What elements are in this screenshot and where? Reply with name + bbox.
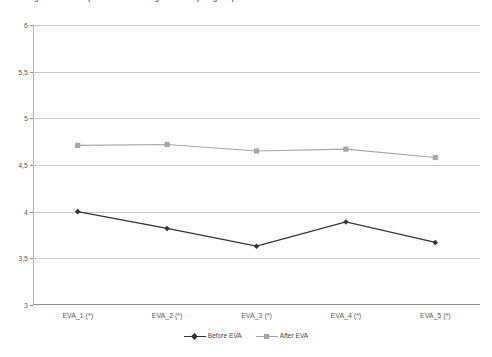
y-tick-label: 4,5 bbox=[18, 162, 28, 169]
legend-label: After EVA bbox=[280, 333, 308, 340]
square-marker-icon bbox=[165, 142, 170, 147]
legend-label: Before EVA bbox=[208, 333, 242, 340]
diamond-marker-icon bbox=[164, 226, 170, 232]
plot-area: 33,544,555,56 EVA_1 (*)EVA_2 (*)EVA_3 (*… bbox=[33, 25, 480, 305]
legend-entry[interactable]: After EVA bbox=[256, 333, 308, 340]
y-tick-label: 6 bbox=[24, 22, 28, 29]
square-marker-icon bbox=[254, 148, 259, 153]
diamond-marker-icon bbox=[343, 219, 349, 225]
x-tick-label: EVA_1 (*) bbox=[62, 312, 93, 319]
legend-swatch bbox=[184, 333, 206, 340]
y-tick-mark bbox=[30, 305, 33, 306]
line-chart: 33,544,555,56 EVA_1 (*)EVA_2 (*)EVA_3 (*… bbox=[0, 0, 492, 357]
diamond-marker-icon bbox=[254, 243, 260, 249]
square-marker-icon bbox=[343, 147, 348, 152]
diamond-marker-icon bbox=[191, 333, 198, 340]
y-tick-label: 5,5 bbox=[18, 68, 28, 75]
legend-swatch bbox=[256, 333, 278, 340]
y-tick-label: 4 bbox=[24, 208, 28, 215]
square-marker-icon bbox=[433, 155, 438, 160]
series-line-before-eva bbox=[78, 212, 436, 247]
x-tick-label: EVA_5 (*) bbox=[420, 312, 451, 319]
y-tick-label: 3,5 bbox=[18, 255, 28, 262]
x-tick-label: EVA_4 (*) bbox=[331, 312, 362, 319]
x-tick-label: EVA_3 (*) bbox=[241, 312, 272, 319]
x-tick-label: EVA_2 (*) bbox=[152, 312, 183, 319]
diamond-marker-icon bbox=[433, 240, 439, 246]
diamond-marker-icon bbox=[75, 209, 81, 215]
square-marker-icon bbox=[75, 143, 80, 148]
y-tick-label: 3 bbox=[24, 302, 28, 309]
series-layer bbox=[33, 25, 480, 305]
legend-entry[interactable]: Before EVA bbox=[184, 333, 242, 340]
y-tick-label: 5 bbox=[24, 115, 28, 122]
square-marker-icon bbox=[264, 334, 269, 339]
chart-legend: Before EVAAfter EVA bbox=[0, 333, 492, 340]
